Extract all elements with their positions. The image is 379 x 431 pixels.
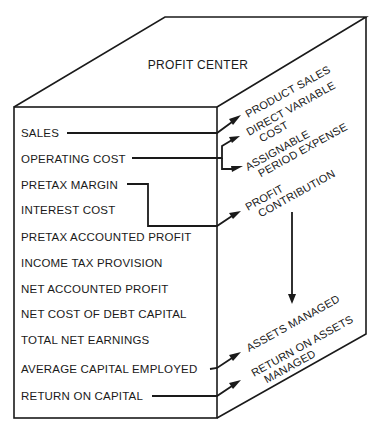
front-item-income-tax-provision: INCOME TAX PROVISION (21, 257, 163, 269)
front-item-interest-cost: INTEREST COST (21, 204, 115, 216)
diagram-title: PROFIT CENTER (148, 58, 248, 72)
arrowhead-icon (231, 166, 243, 172)
front-item-list: SALES OPERATING COST PRETAX MARGIN INTER… (21, 127, 198, 402)
front-item-return-on-capital: RETURN ON CAPITAL (21, 390, 143, 402)
front-item-sales: SALES (21, 127, 59, 139)
arrowhead-icon (229, 136, 240, 143)
front-item-net-accounted-profit: NET ACCOUNTED PROFIT (21, 283, 169, 295)
front-item-operating-cost: OPERATING COST (21, 153, 126, 165)
side-item-list: PRODUCT SALES DIRECT VARIABLE COST ASSIG… (243, 63, 361, 389)
connector-return-on-capital (152, 386, 232, 396)
front-item-pretax-margin: PRETAX MARGIN (21, 179, 118, 191)
front-item-average-capital-employed: AVERAGE CAPITAL EMPLOYED (21, 363, 198, 375)
connector-sales (67, 122, 232, 133)
connector-average-capital (210, 358, 232, 369)
side-item-return-on-assets-managed: RETURN ON ASSETS MANAGED (249, 313, 361, 389)
arrowhead-icon (288, 294, 296, 304)
profit-center-diagram: PROFIT CENTER SALES OPERATING COST PRETA… (0, 0, 379, 431)
front-item-net-cost-of-debt-capital: NET COST OF DEBT CAPITAL (21, 308, 187, 320)
front-item-total-net-earnings: TOTAL NET EARNINGS (21, 334, 150, 346)
front-item-pretax-accounted-profit: PRETAX ACCOUNTED PROFIT (21, 231, 192, 243)
connector-operating-cost-2 (222, 158, 232, 169)
